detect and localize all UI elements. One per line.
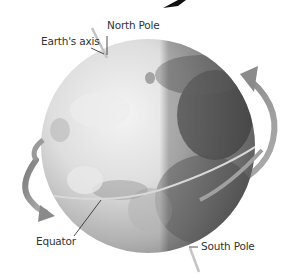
north-pole-label: North Pole xyxy=(107,19,159,31)
earth-axis-label: Earth's axis xyxy=(41,35,100,47)
earth-rotation-diagram: North Pole Earth's axis Equator South Po… xyxy=(0,0,299,277)
south-axis-line xyxy=(190,248,199,272)
top-fragment-icon xyxy=(163,0,186,8)
south-pole-label: South Pole xyxy=(201,240,255,252)
equator-label: Equator xyxy=(36,235,76,247)
earth-globe-icon xyxy=(40,30,270,260)
